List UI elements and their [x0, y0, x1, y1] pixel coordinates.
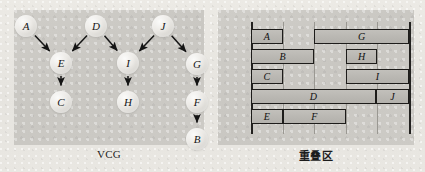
graph-edge-j-g	[172, 36, 186, 52]
graph-node-label: C	[57, 97, 64, 108]
graph-node-d: D	[85, 15, 107, 37]
graph-node-i: I	[117, 52, 139, 74]
overlap-bar-d: D	[251, 89, 376, 104]
graph-node-c: C	[50, 91, 72, 113]
overlap-chart: AGBHCIDJEF	[218, 10, 414, 145]
overlap-bar-label: I	[376, 72, 379, 82]
graph-node-label: A	[23, 21, 30, 32]
overlap-bar-label: D	[310, 92, 317, 102]
overlap-bar-label: G	[358, 32, 365, 42]
overlap-bar-label: J	[390, 92, 394, 102]
overlap-bar-label: C	[263, 72, 270, 82]
vcg-caption: VCG	[14, 148, 204, 160]
graph-node-label: D	[92, 21, 100, 32]
vcg-panel: ADJEIGCHFB	[14, 10, 204, 145]
overlap-bar-f: F	[283, 109, 346, 124]
overlap-bar-label: B	[280, 52, 286, 62]
graph-node-label: H	[124, 97, 132, 108]
graph-node-h: H	[117, 91, 139, 113]
graph-node-j: J	[152, 15, 174, 37]
overlap-caption: 重叠区	[218, 147, 414, 163]
graph-node-label: J	[161, 21, 166, 32]
overlap-bar-label: H	[358, 52, 365, 62]
graph-edge-d-i	[105, 36, 118, 51]
graph-node-g: G	[186, 53, 208, 75]
overlap-bar-label: E	[264, 112, 270, 122]
overlap-bar-g: G	[314, 29, 409, 44]
figure-container: ADJEIGCHFB VCG AGBHCIDJEF 重叠区	[0, 0, 425, 172]
chart-axis-right	[409, 22, 411, 134]
graph-edge-d-e	[72, 35, 87, 51]
graph-node-f: F	[186, 91, 208, 113]
vcg-edge-layer	[14, 10, 204, 145]
overlap-bar-b: B	[251, 49, 314, 64]
overlap-bar-e: E	[251, 109, 283, 124]
graph-node-b: B	[186, 128, 208, 150]
overlap-bar-label: F	[311, 112, 317, 122]
overlap-bar-h: H	[346, 49, 378, 64]
graph-node-label: F	[194, 97, 201, 108]
graph-node-label: G	[193, 59, 201, 70]
graph-node-e: E	[50, 52, 72, 74]
overlap-bar-c: C	[251, 69, 283, 84]
graph-node-label: E	[58, 58, 65, 69]
overlap-bar-i: I	[346, 69, 409, 84]
overlap-panel: AGBHCIDJEF	[218, 10, 414, 145]
graph-node-label: B	[194, 134, 201, 145]
graph-node-label: I	[126, 58, 130, 69]
graph-node-a: A	[15, 15, 37, 37]
overlap-bar-label: A	[264, 32, 270, 42]
overlap-bar-j: J	[376, 89, 409, 104]
graph-edge-j-i	[139, 35, 154, 51]
overlap-bar-a: A	[251, 29, 283, 44]
graph-edge-a-e	[35, 35, 50, 51]
